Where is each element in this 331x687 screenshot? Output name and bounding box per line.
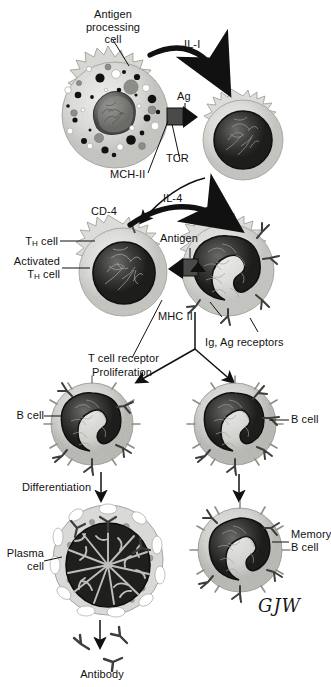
label-b-cell-right: B cell (291, 413, 319, 426)
label-antigen: Antigen (160, 232, 198, 245)
b-cell-right (187, 376, 283, 475)
label-il-1: IL-I (184, 38, 200, 51)
label-memory-b-cell: Memory B cell (291, 528, 331, 553)
memory-b-cell (190, 501, 290, 602)
label-proliferation: Proliferation (92, 366, 152, 379)
label-t-cell-receptor: T cell receptor (88, 352, 159, 365)
antigen-processing-cell (62, 46, 168, 168)
label-activated-th-cell: ActivatedTH cell (0, 255, 60, 282)
t-cell-naive (203, 89, 283, 180)
label-cd-4: CD-4 (91, 205, 117, 218)
label-tcr: TCR (166, 152, 189, 165)
label-ag: Ag (177, 90, 191, 103)
il1-arrow (150, 48, 224, 84)
b-cell-left (44, 376, 140, 475)
label-differentiation: Differentiation (22, 481, 91, 494)
label-ig-ag-receptors: Ig, Ag receptors (205, 336, 284, 349)
label-antigen-processing-cell: Antigen processing cell (55, 8, 171, 46)
activated-th-cell (76, 215, 167, 316)
label-b-cell-left: B cell (0, 409, 44, 422)
label-mch-ii: MCH-II (110, 168, 145, 181)
artist-signature: GJW (258, 595, 301, 616)
label-antibody: Antibody (62, 668, 142, 681)
label-mhc-ii: MHC II (158, 310, 193, 323)
label-plasma-cell: Plasma cell (0, 547, 44, 572)
label-il-4: IL-4 (163, 192, 182, 205)
figure-canvas: Antigen processing cell IL-I Ag TCR MCH-… (0, 0, 331, 687)
label-th-cell: TH cell (0, 235, 58, 250)
plasma-cell (50, 504, 165, 617)
